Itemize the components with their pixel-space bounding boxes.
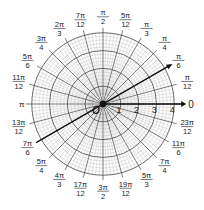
angle-label: 4π3 — [53, 171, 65, 189]
angle-label: π2 — [97, 8, 109, 26]
label-denominator: 12 — [15, 127, 23, 136]
angle-label: 2π3 — [53, 20, 65, 38]
label-denominator: 12 — [121, 189, 129, 198]
label-denominator: 4 — [39, 43, 43, 52]
minor-ray — [106, 38, 128, 96]
label-numerator: 23π — [180, 118, 194, 127]
label-denominator: 2 — [101, 192, 105, 201]
angle-label: π4 — [159, 34, 171, 52]
angle-label: 11π12 — [12, 73, 25, 91]
origin-dot — [100, 101, 106, 107]
label-denominator: 6 — [25, 61, 29, 70]
minor-ray — [37, 78, 95, 100]
angle-label: 23π12 — [180, 118, 194, 136]
label-denominator: 3 — [145, 29, 149, 38]
angle-label-zero: 0 — [188, 99, 194, 110]
label-numerator: π — [162, 34, 167, 43]
label-denominator: 12 — [183, 127, 191, 136]
radial-label-3: 3 — [152, 105, 157, 115]
label-denominator: 2 — [101, 17, 105, 26]
angle-label: π3 — [141, 20, 153, 38]
angle-label: 5π3 — [141, 171, 153, 189]
label-denominator: 6 — [25, 148, 29, 157]
label-numerator: 19π — [119, 180, 133, 189]
angle-label-pi: π — [19, 100, 25, 109]
label-denominator: 12 — [121, 20, 129, 29]
label-denominator: 4 — [39, 166, 43, 175]
label-numerator: 2π — [55, 20, 64, 29]
radial-label-4: 4 — [170, 105, 175, 115]
label-numerator: 11π — [12, 73, 25, 82]
label-denominator: 12 — [183, 82, 191, 91]
minor-ray — [106, 112, 128, 170]
label-numerator: 3π — [37, 34, 46, 43]
minor-ray — [77, 38, 99, 96]
origin-label: O — [92, 105, 100, 116]
label-denominator: 3 — [57, 29, 61, 38]
minor-ray — [77, 112, 99, 170]
label-numerator: 5π — [142, 171, 151, 180]
label-denominator: 3 — [57, 180, 61, 189]
polar-coordinate-grid: π12π6π4π35π12π27π122π33π45π611π1213π127π… — [0, 0, 204, 210]
label-denominator: 6 — [176, 148, 180, 157]
label-numerator: 13π — [12, 118, 26, 127]
label-numerator: π — [176, 52, 181, 61]
angle-label: 19π12 — [119, 180, 133, 198]
angle-label: 13π12 — [12, 118, 26, 136]
label-numerator: 5π — [121, 11, 130, 20]
label-denominator: 4 — [163, 43, 167, 52]
angle-label: 5π6 — [21, 52, 33, 70]
label-denominator: 12 — [76, 189, 84, 198]
label-denominator: 6 — [176, 61, 180, 70]
label-denominator: 4 — [163, 166, 167, 175]
label-numerator: π — [100, 8, 105, 17]
label-numerator: 4π — [55, 171, 64, 180]
label-numerator: 5π — [37, 157, 46, 166]
angle-label: 7π6 — [21, 139, 33, 157]
label-numerator: 3π — [98, 183, 107, 192]
label-numerator: π — [144, 20, 149, 29]
label-numerator: 17π — [74, 180, 88, 189]
label-denominator: 3 — [145, 180, 149, 189]
angle-label: 7π12 — [74, 11, 86, 29]
angle-label: 11π6 — [172, 139, 185, 157]
angle-label: 3π4 — [35, 34, 47, 52]
label-numerator: 7π — [23, 139, 32, 148]
label-numerator: 5π — [23, 52, 32, 61]
label-numerator: 7π — [160, 157, 169, 166]
label-denominator: 12 — [15, 82, 23, 91]
angle-label: 17π12 — [74, 180, 88, 198]
angle-label: 5π4 — [35, 157, 47, 175]
label-numerator: π — [185, 73, 190, 82]
label-numerator: 11π — [172, 139, 185, 148]
angle-label: 3π2 — [97, 183, 109, 201]
label-denominator: 12 — [76, 20, 84, 29]
angle-label: 5π12 — [120, 11, 132, 29]
radial-label-1: 1 — [116, 105, 121, 115]
angle-label: π12 — [181, 73, 193, 91]
angle-label: 7π4 — [159, 157, 171, 175]
label-numerator: 7π — [76, 11, 85, 20]
angle-label: π6 — [173, 52, 185, 70]
arrow-icon — [181, 101, 186, 107]
radial-label-2: 2 — [134, 105, 139, 115]
